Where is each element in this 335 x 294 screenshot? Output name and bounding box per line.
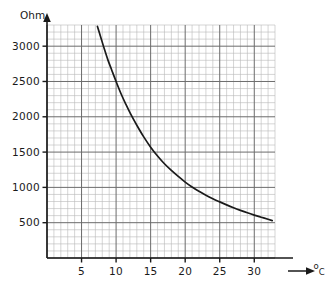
x-tick-label: 25 xyxy=(213,265,227,277)
y-tick-label: 500 xyxy=(19,216,40,228)
x-tick-label: 15 xyxy=(144,265,158,277)
celsius-letter: C xyxy=(319,267,325,277)
chart-canvas: 50010001500200025003000 51015202530 Ohm … xyxy=(0,0,335,294)
x-tick-label: 10 xyxy=(109,265,123,277)
y-tick-label: 1500 xyxy=(12,146,40,158)
chart-background xyxy=(0,0,335,294)
resistance-temperature-chart: 50010001500200025003000 51015202530 Ohm … xyxy=(0,0,335,294)
x-tick-label: 20 xyxy=(178,265,192,277)
x-tick-label: 30 xyxy=(247,265,261,277)
y-tick-label: 1000 xyxy=(12,181,40,193)
y-axis-unit-label: Ohm xyxy=(20,9,45,21)
y-tick-label: 2500 xyxy=(12,75,40,87)
x-tick-label: 5 xyxy=(78,265,85,277)
y-tick-label: 2000 xyxy=(12,110,40,122)
y-tick-label: 3000 xyxy=(12,40,40,52)
